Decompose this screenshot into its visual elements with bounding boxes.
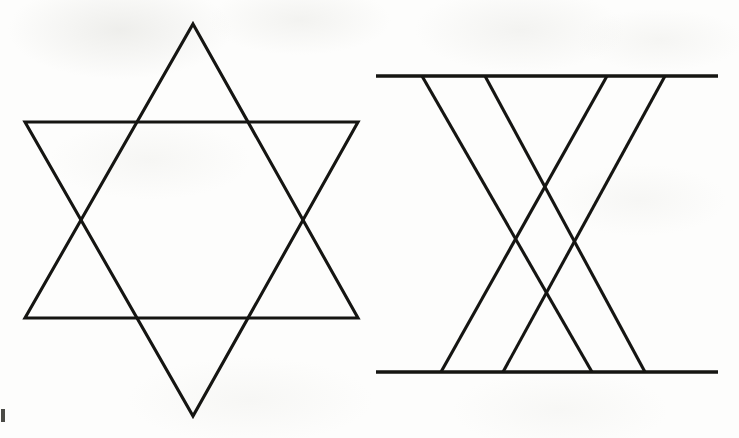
figure-page	[0, 0, 739, 438]
left-edge-scan-mark	[1, 409, 5, 422]
downward-triangle	[25, 122, 358, 416]
upward-triangle	[25, 24, 358, 318]
transversal-4	[503, 76, 665, 372]
transversal-3	[441, 76, 607, 372]
crossed-rails-figure	[376, 76, 718, 372]
hexagram-figure	[25, 24, 358, 416]
figures-canvas	[0, 0, 739, 438]
